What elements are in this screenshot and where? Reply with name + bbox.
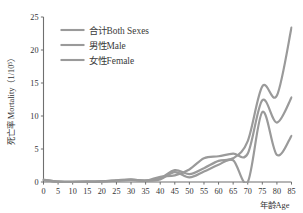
legend-label-1: 男性Male — [89, 40, 126, 51]
mortality-by-age-chart: 0510152025051015202530354045505560657075… — [0, 0, 303, 213]
legend-label-0: 合计Both Sexes — [89, 25, 150, 36]
y-tick-label-5: 5 — [34, 145, 38, 154]
chart-legend: 合计Both Sexes男性Male女性Female — [61, 25, 150, 66]
y-tick-label-25: 25 — [30, 13, 38, 22]
chart-canvas: 0510152025051015202530354045505560657075… — [0, 0, 303, 213]
x-tick-label-60: 60 — [214, 187, 222, 196]
x-tick-label-70: 70 — [244, 187, 252, 196]
x-tick-label-0: 0 — [41, 187, 45, 196]
legend-label-2: 女性Female — [89, 55, 135, 66]
x-tick-label-80: 80 — [273, 187, 281, 196]
y-axis-title: 死亡率 Mortality（1/10⁵） — [6, 54, 16, 146]
x-tick-label-40: 40 — [156, 187, 164, 196]
x-tick-label-35: 35 — [142, 187, 150, 196]
x-tick-label-85: 85 — [287, 187, 295, 196]
x-tick-label-25: 25 — [112, 187, 120, 196]
x-tick-label-15: 15 — [83, 187, 91, 196]
x-tick-label-20: 20 — [98, 187, 106, 196]
y-tick-label-10: 10 — [30, 112, 38, 121]
y-tick-label-15: 15 — [30, 79, 38, 88]
x-tick-label-65: 65 — [229, 187, 237, 196]
series-line-1 — [44, 98, 292, 182]
series-line-0 — [44, 28, 292, 182]
y-tick-label-20: 20 — [30, 46, 38, 55]
x-tick-label-75: 75 — [258, 187, 266, 196]
x-tick-label-50: 50 — [185, 187, 193, 196]
x-axis-title: 年龄Age — [260, 200, 290, 210]
y-tick-label-0: 0 — [34, 178, 38, 187]
x-tick-label-55: 55 — [200, 187, 208, 196]
x-tick-label-45: 45 — [171, 187, 179, 196]
x-tick-label-10: 10 — [69, 187, 77, 196]
x-tick-label-30: 30 — [127, 187, 135, 196]
series-group — [44, 28, 292, 184]
x-tick-label-5: 5 — [56, 187, 60, 196]
